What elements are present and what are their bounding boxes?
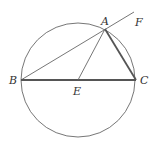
label-e: E [73,86,81,97]
segment-bf [21,12,134,80]
diagram-canvas [0,0,155,146]
segment-ac [105,29,136,80]
geometry-figure: A F B C E [0,0,155,146]
label-c: C [140,75,148,86]
label-a: A [101,16,109,27]
segment-ae [78,29,105,80]
label-f: F [135,17,143,28]
label-b: B [9,75,17,86]
